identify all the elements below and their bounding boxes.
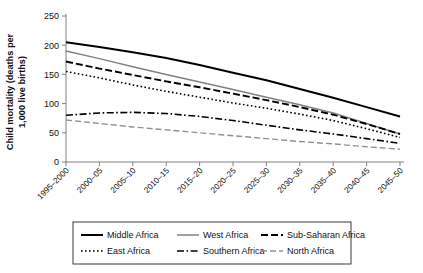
plot-area	[66, 42, 400, 149]
child-mortality-line-chart: Child mortality (deaths per 1,000 live b…	[0, 0, 423, 273]
x-tick-label-7: 2030–35	[276, 166, 305, 195]
y-tick-label-0: 0	[54, 157, 59, 167]
x-tick-label-5: 2020–25	[209, 166, 238, 195]
x-tick-label-10: 2045–50	[376, 166, 405, 195]
legend-label-southern-africa: Southern Africa	[203, 246, 265, 256]
x-tick-label-0: 1995–2000	[36, 166, 72, 202]
x-tick-label-8: 2035–40	[309, 166, 338, 195]
legend-label-east-africa: East Africa	[107, 246, 150, 256]
legend-label-west-africa: West Africa	[203, 230, 248, 240]
legend-border	[73, 222, 351, 264]
x-tick-label-6: 2025–30	[242, 166, 271, 195]
y-axis-title-line1: Child mortality (deaths per	[5, 33, 15, 150]
y-tick-label-200: 200	[44, 41, 59, 51]
x-tick-label-3: 2010–15	[142, 166, 171, 195]
y-tick-label-100: 100	[44, 99, 59, 109]
chart-legend: Middle AfricaWest AfricaSub-Saharan Afri…	[73, 222, 365, 264]
x-tick-label-9: 2040–45	[343, 166, 372, 195]
x-tick-label-1: 2000–05	[75, 166, 104, 195]
x-tick-label-4: 2015–20	[176, 166, 205, 195]
series-line-east-africa	[66, 71, 400, 137]
series-line-southern-africa	[66, 112, 400, 143]
series-line-west-africa	[66, 51, 400, 134]
y-tick-label-250: 250	[44, 11, 59, 21]
legend-label-middle-africa: Middle Africa	[107, 230, 159, 240]
y-tick-label-150: 150	[44, 70, 59, 80]
x-tick-label-2: 2005–10	[109, 166, 138, 195]
series-line-middle-africa	[66, 42, 400, 116]
legend-label-north-africa: North Africa	[287, 246, 334, 256]
y-axis-title-line2: 1,000 live births)	[17, 56, 27, 128]
y-tick-label-50: 50	[49, 128, 59, 138]
y-axis: 050100150200250	[44, 11, 66, 167]
chart-canvas: Child mortality (deaths per 1,000 live b…	[0, 0, 423, 273]
y-axis-title: Child mortality (deaths per 1,000 live b…	[5, 33, 27, 150]
x-axis: 1995–20002000–052005–102010–152015–20202…	[36, 162, 406, 201]
legend-label-sub-saharan-africa: Sub-Saharan Africa	[287, 230, 365, 240]
